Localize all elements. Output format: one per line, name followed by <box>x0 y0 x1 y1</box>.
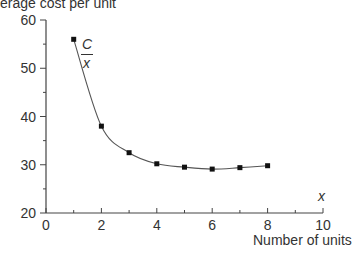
data-point-marker <box>99 124 104 129</box>
x-tick-label: 10 <box>315 217 331 233</box>
data-point-marker <box>127 150 132 155</box>
y-axis-label: erage cost per unit <box>0 0 116 11</box>
data-point-marker <box>71 37 76 42</box>
y-tick-label: 50 <box>20 60 36 76</box>
data-point-marker <box>182 165 187 170</box>
x-variable-label: x <box>318 188 325 204</box>
x-axis-label: Number of units <box>253 232 352 248</box>
curve-label-numerator: C <box>82 36 92 52</box>
x-tick-label: 4 <box>153 217 161 233</box>
x-tick-label: 8 <box>264 217 272 233</box>
average-cost-curve <box>74 39 268 169</box>
curve-label-denominator: x <box>83 55 90 71</box>
y-tick-label: 30 <box>20 157 36 173</box>
y-tick-label: 20 <box>20 205 36 221</box>
y-tick-label: 40 <box>20 109 36 125</box>
x-tick-label: 0 <box>42 217 50 233</box>
x-tick-label: 2 <box>98 217 106 233</box>
data-point-marker <box>154 161 159 166</box>
data-point-marker <box>210 167 215 172</box>
data-point-marker <box>265 163 270 168</box>
data-point-marker <box>237 165 242 170</box>
y-tick-label: 60 <box>20 12 36 28</box>
x-tick-label: 6 <box>208 217 216 233</box>
